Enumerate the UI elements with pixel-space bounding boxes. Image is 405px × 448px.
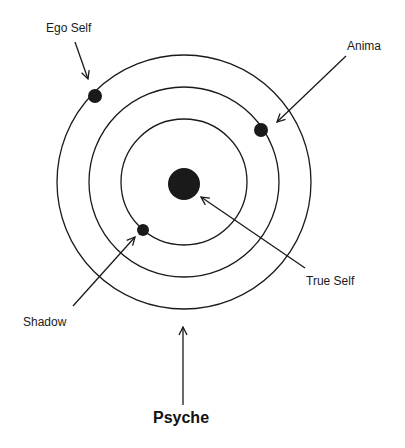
shadow-arrow <box>73 237 135 306</box>
anima-label: Anima <box>347 40 381 52</box>
true-self-label: True Self <box>306 275 354 287</box>
shadow-node <box>137 224 149 236</box>
psyche-title: Psyche <box>153 410 209 426</box>
anima-node <box>254 123 268 137</box>
true-self-arrow <box>201 197 305 268</box>
ego-self-node <box>88 89 102 103</box>
ego-self-arrow <box>75 42 88 79</box>
anima-arrow <box>277 56 346 122</box>
shadow-label: Shadow <box>23 316 66 328</box>
psyche-diagram <box>0 0 405 448</box>
ego-self-label: Ego Self <box>46 22 91 34</box>
true-self-node <box>168 168 200 200</box>
